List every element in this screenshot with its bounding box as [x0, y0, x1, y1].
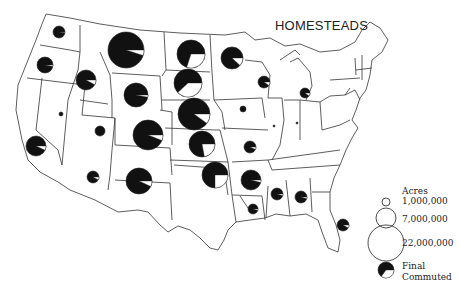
legend-final: Final	[402, 261, 425, 271]
pie-oklahoma	[202, 162, 228, 188]
pie-washington	[53, 26, 65, 38]
homestead-pies	[26, 26, 349, 231]
pie-iowa	[240, 106, 246, 112]
legend-circle-1	[382, 198, 390, 206]
pie-idaho	[76, 70, 96, 90]
pie-alabama	[295, 191, 307, 203]
pie-florida	[337, 219, 349, 231]
pie-oregon	[37, 57, 53, 73]
pie-california	[26, 136, 46, 156]
legend-commuted: Commuted	[402, 272, 452, 282]
pie-louisiana	[248, 204, 258, 214]
pie-wyoming	[124, 83, 148, 107]
us-map	[0, 0, 460, 293]
pie-missouri	[244, 141, 256, 153]
pie-nebraska	[178, 98, 210, 130]
legend-size-2: 7,000,000	[402, 214, 448, 224]
pie-wisconsin	[258, 76, 270, 88]
pie-minnesota	[221, 47, 243, 69]
pie-indiana	[296, 122, 298, 124]
pie-illinois	[273, 125, 275, 127]
pie-mississippi	[271, 188, 283, 200]
pie-colorado	[133, 120, 163, 150]
pie-north-dakota	[177, 40, 205, 68]
pie-south-dakota	[174, 69, 202, 97]
pie-arizona	[87, 171, 99, 183]
legend-size-3: 22,000,000	[402, 238, 454, 248]
legend-circle-3	[368, 225, 404, 261]
commuted-wedge	[202, 144, 215, 157]
legend-header: Acres	[402, 186, 428, 196]
pie-kansas	[189, 131, 215, 157]
pie-new-mexico	[126, 168, 152, 194]
pie-montana	[108, 32, 144, 68]
pie-michigan	[300, 88, 310, 98]
map-title: HOMESTEADS	[275, 18, 368, 33]
legend-pie-sample	[378, 262, 394, 278]
pie-utah	[95, 126, 105, 136]
legend-size-1: 1,000,000	[402, 196, 448, 206]
legend	[368, 198, 404, 278]
pie-arkansas	[241, 170, 261, 190]
commuted-wedge	[215, 175, 228, 188]
pie-nevada	[59, 112, 63, 116]
